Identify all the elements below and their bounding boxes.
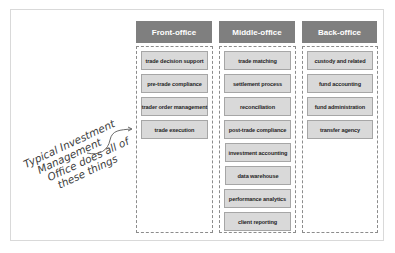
back-office-header: Back-office (302, 21, 377, 43)
front-office-group: trade decision support pre-trade complia… (136, 46, 213, 233)
middle-office-item: performance analytics (224, 189, 291, 208)
front-office-item: trade execution (141, 120, 208, 139)
front-office-item: trade decision support (141, 51, 208, 70)
middle-office-item: trade matching (224, 51, 291, 70)
front-office-item: trader order management (141, 97, 208, 116)
middle-office-item: post-trade compliance (224, 120, 291, 139)
back-office-item: fund accounting (307, 74, 373, 93)
middle-office-item: reconciliation (224, 97, 291, 116)
middle-office-item: data warehouse (225, 166, 291, 185)
middle-office-header: Middle-office (219, 21, 295, 43)
back-office-item: fund administration (307, 97, 373, 116)
middle-office-item: settlement process (224, 74, 291, 93)
back-office-group: custody and related fund accounting fund… (302, 46, 378, 233)
back-office-item: custody and related (307, 51, 373, 70)
middle-office-item: investment accounting (225, 143, 291, 162)
front-office-item: pre-trade compliance (141, 74, 208, 93)
front-office-header: Front-office (136, 21, 212, 43)
back-office-item: transfer agency (307, 120, 373, 139)
middle-office-item: client reporting (224, 212, 291, 231)
middle-office-group: trade matching settlement process reconc… (219, 46, 296, 233)
